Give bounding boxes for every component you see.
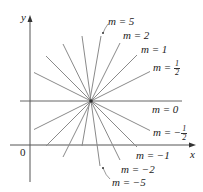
label-m-neg-half: m = −12 [153,125,187,142]
line-m-5 [82,36,101,146]
fraction-denominator: 2 [181,134,187,142]
y-axis-label: y [21,12,26,23]
leader-m-neg5-dot [102,167,104,169]
label-m0: m = 0 [152,104,178,115]
label-m-neg1: m = −1 [136,150,170,161]
label-m-neg2: m = −2 [121,164,155,175]
fraction-half: 12 [174,60,180,77]
leader-m5-dot [102,32,104,34]
fraction-neg-half: 12 [181,125,187,142]
x-axis-label: x [190,149,195,160]
leader-m-neg5 [103,168,110,179]
center-point [89,99,93,103]
y-axis-arrow-icon [28,15,33,22]
origin-label: 0 [20,147,26,158]
label-m2: m = 2 [123,30,149,41]
line-family [20,36,182,166]
label-m5: m = 5 [108,16,134,27]
fraction-denominator: 2 [174,69,180,77]
label-m-half: m = 12 [153,60,180,77]
x-axis-arrow-icon [189,143,196,148]
label-m-half-prefix: m = [153,61,174,73]
line-family-diagram [0,0,203,192]
label-m-neg-half-prefix: m = − [153,126,181,138]
label-m-neg5: m = −5 [112,177,146,188]
label-m1: m = 1 [141,44,167,55]
